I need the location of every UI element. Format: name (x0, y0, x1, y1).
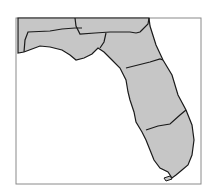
florida-map (0, 0, 211, 194)
